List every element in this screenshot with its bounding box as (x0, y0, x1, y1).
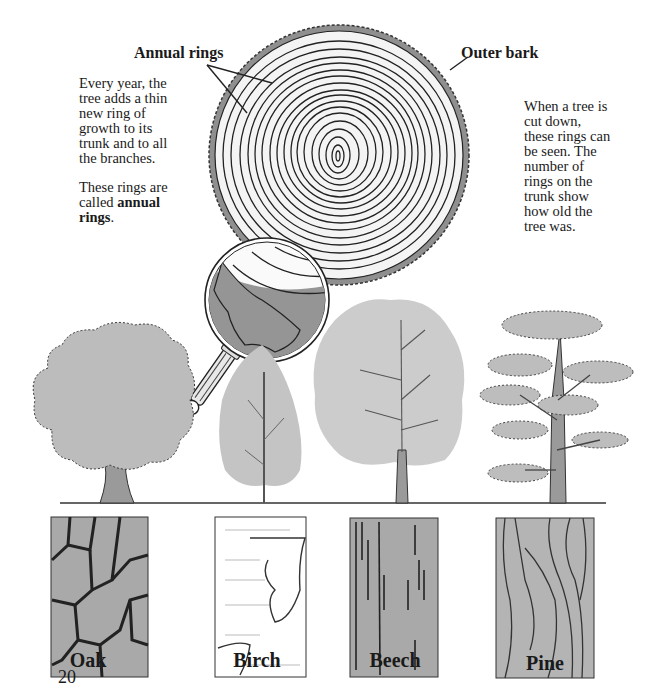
birch-tree-icon (219, 345, 301, 503)
oak-tree-icon (33, 322, 194, 503)
tree-label-pine: Pine (485, 652, 605, 675)
pine-tree-icon (480, 311, 633, 503)
right-description: When a tree is cut down, these rings can… (524, 99, 614, 248)
left-paragraph-1: Every year, the tree adds a thin new rin… (79, 76, 179, 166)
right-paragraph-1: When a tree is cut down, these rings can… (524, 99, 614, 234)
tree-label-beech: Beech (335, 649, 455, 672)
left-paragraph-2: These rings are called annual rings. (79, 180, 179, 225)
tree-label-oak: Oak (28, 649, 148, 672)
beech-tree-icon (314, 299, 465, 503)
outer-bark-label: Outer bark (461, 44, 538, 62)
tree-label-birch: Birch (197, 649, 317, 672)
page-number: 20 (58, 667, 76, 688)
annual-rings-label: Annual rings (134, 44, 223, 62)
left-description: Every year, the tree adds a thin new rin… (79, 76, 179, 239)
